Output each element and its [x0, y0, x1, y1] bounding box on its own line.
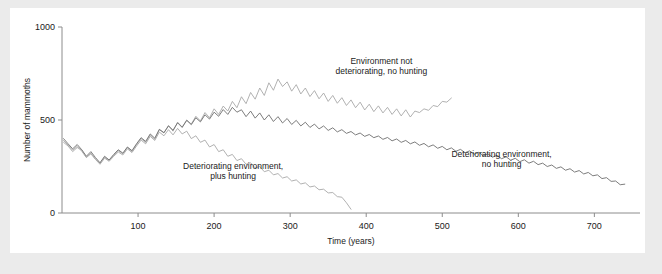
x-tick-label: 600 — [511, 221, 526, 231]
chart-axes: 05001000100200300400500600700Time (years… — [22, 22, 640, 246]
x-tick-label: 200 — [207, 221, 222, 231]
annotation-line-2: no hunting — [482, 159, 522, 169]
series-annotation-0: Environment notdeteriorating, no hunting — [336, 56, 428, 76]
chart-series-group — [64, 79, 625, 209]
annotation-line-2: deteriorating, no hunting — [336, 66, 428, 76]
series-annotation-2: Deteriorating environment,plus hunting — [183, 161, 283, 181]
x-tick-label: 500 — [435, 221, 450, 231]
y-tick-label: 0 — [50, 208, 55, 218]
x-tick-label: 400 — [359, 221, 374, 231]
series-annotation-1: Deteriorating environment,no hunting — [451, 149, 551, 169]
series-line-1 — [64, 107, 625, 184]
y-tick-label: 500 — [40, 115, 55, 125]
y-axis-title: Number of mammoths — [22, 78, 32, 162]
annotation-line-1: Environment not — [350, 56, 413, 66]
y-tick-label: 1000 — [35, 22, 55, 32]
x-tick-label: 300 — [283, 221, 298, 231]
series-line-0 — [64, 79, 452, 163]
x-tick-label: 100 — [131, 221, 146, 231]
x-tick-label: 700 — [587, 221, 602, 231]
chart-annotations: Environment notdeteriorating, no hunting… — [183, 56, 552, 181]
x-axis-title: Time (years) — [327, 236, 375, 246]
annotation-line-1: Deteriorating environment, — [183, 161, 283, 171]
annotation-line-2: plus hunting — [210, 171, 256, 181]
chart-figure: 05001000100200300400500600700Time (years… — [0, 0, 662, 274]
annotation-line-1: Deteriorating environment, — [451, 149, 551, 159]
line-chart-svg: 05001000100200300400500600700Time (years… — [0, 0, 662, 274]
